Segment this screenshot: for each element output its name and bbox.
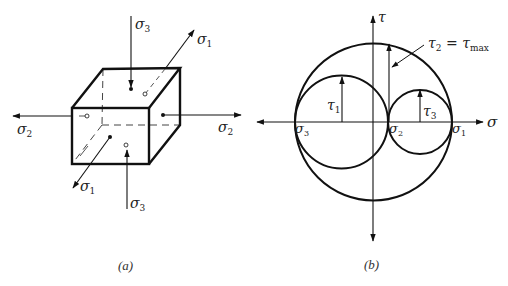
- tau3-label: τ3: [423, 103, 437, 121]
- sigma2-point-label: σ2: [389, 121, 403, 138]
- tau2-max-label: τ2 = τmax: [428, 35, 489, 53]
- caption-a: (a): [118, 258, 133, 273]
- sigma3-top-arrow: [129, 16, 133, 91]
- sigma1-top-label: σ1: [197, 31, 212, 49]
- sigma1-back-arrow: [143, 30, 194, 96]
- stress-diagram: σ3 σ1 σ2 σ2 σ1 σ3 (a) σ τ: [0, 0, 508, 286]
- sigma2-left-label: σ2: [17, 121, 32, 139]
- sigma3-top-label: σ3: [135, 16, 151, 34]
- caption-b: (b): [364, 257, 379, 272]
- tau1-label: τ1: [327, 97, 340, 115]
- sigma2-right-arrow: [161, 113, 241, 117]
- sigma1-point-label: σ1: [452, 121, 466, 138]
- sigma1-front-label: σ1: [80, 178, 95, 196]
- sigma-axis-label: σ: [487, 113, 498, 131]
- sigma2-left-arrow: [13, 114, 89, 118]
- sigma2-right-label: σ2: [218, 119, 233, 137]
- tau2-leader-arrow: [392, 45, 424, 67]
- tau-axis-label: τ: [378, 9, 386, 25]
- sigma3-bottom-label: σ3: [130, 195, 146, 213]
- sigma3-point-label: σ3: [295, 121, 309, 138]
- sigma1-front-arrow: [73, 135, 112, 188]
- sigma3-bottom-arrow: [124, 143, 128, 209]
